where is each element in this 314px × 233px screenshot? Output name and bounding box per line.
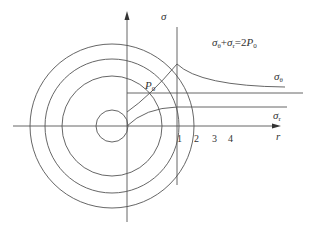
sigma-r-curve	[127, 107, 177, 126]
r-axis-label: r	[276, 131, 280, 142]
zone-number-2: 2	[194, 134, 199, 144]
stress-diagram	[0, 0, 314, 233]
r-axis-arrow-icon	[272, 124, 281, 129]
sigma-axis-arrow-icon	[125, 11, 130, 20]
zone-number-3: 3	[212, 134, 217, 144]
p0-label: P0	[145, 80, 155, 93]
sigma-axis-label: σ	[161, 11, 166, 22]
zone-number-1: 1	[177, 134, 182, 144]
equation-label: σθ+σr=2P0	[212, 37, 257, 50]
zone-number-4: 4	[228, 134, 233, 144]
sigma-r-label: σr	[273, 110, 281, 123]
sigma-theta-elastic	[177, 64, 285, 87]
sigma-theta-label: σθ	[274, 71, 283, 84]
